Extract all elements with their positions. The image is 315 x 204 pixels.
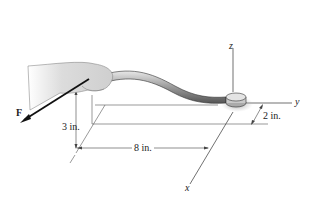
z-axis-label: z: [229, 41, 233, 51]
hand: [28, 62, 113, 110]
y-axis-label: y: [295, 97, 299, 107]
offset-dimension: 2 in.: [263, 111, 281, 121]
x-axis-label: x: [185, 183, 189, 193]
length-dimension: 8 in.: [132, 143, 154, 153]
wrench-force-diagram: z y x F 3 in. 8 in. 2 in.: [0, 0, 315, 204]
height-dimension: 3 in.: [62, 122, 80, 132]
force-label: F: [16, 108, 22, 118]
diagram-graphics: [0, 0, 315, 204]
